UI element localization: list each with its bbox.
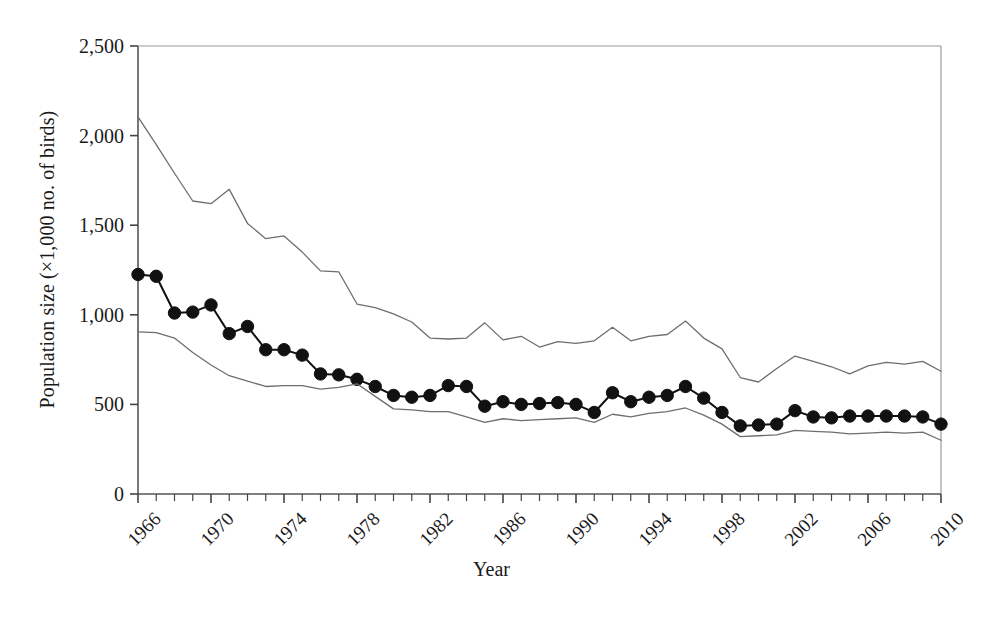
data-point-marker [278,344,290,356]
data-point-marker [187,306,199,318]
data-point-marker [260,344,272,356]
data-point-marker [552,396,564,408]
data-point-marker [862,410,874,422]
y-tick-label: 2,500 [40,35,124,58]
data-point-marker [643,391,655,403]
data-point-marker [698,392,710,404]
data-point-marker [150,270,162,282]
data-point-marker [296,349,308,361]
data-point-marker [625,396,637,408]
data-point-marker [168,307,180,319]
data-point-marker [716,406,728,418]
data-point-marker [460,380,472,392]
data-point-marker [333,369,345,381]
axis-frame [138,46,941,494]
data-point-marker [406,391,418,403]
data-point-marker [223,327,235,339]
data-point-marker [515,398,527,410]
data-point-marker [606,387,618,399]
data-point-marker [752,419,764,431]
y-tick-label: 0 [40,483,124,506]
data-point-marker [935,418,947,430]
data-point-marker [479,400,491,412]
data-point-marker [898,410,910,422]
y-tick-label: 1,500 [40,214,124,237]
data-point-marker [661,389,673,401]
data-point-marker [570,398,582,410]
y-tick-label: 2,000 [40,124,124,147]
data-point-marker [825,412,837,424]
y-tick-label: 1,000 [40,303,124,326]
x-axis-ticks [138,494,941,503]
data-point-marker [679,380,691,392]
series-population-index [132,268,947,432]
population-trend-chart: Population size (×1,000 no. of birds) Ye… [0,0,983,619]
data-point-marker [807,411,819,423]
y-tick-label: 500 [40,393,124,416]
data-point-marker [387,389,399,401]
data-point-marker [844,410,856,422]
series-lower-ci [138,332,941,440]
data-point-marker [205,299,217,311]
data-point-marker [917,411,929,423]
data-point-marker [880,410,892,422]
data-point-marker [424,389,436,401]
data-point-marker [789,404,801,416]
data-point-marker [734,420,746,432]
data-point-marker [588,406,600,418]
data-point-marker [497,396,509,408]
data-point-marker [533,397,545,409]
series-upper-ci [138,117,941,382]
data-point-marker [314,368,326,380]
data-point-marker [369,380,381,392]
data-point-marker [132,268,144,280]
data-point-marker [241,320,253,332]
data-point-marker [442,379,454,391]
data-point-marker [771,418,783,430]
